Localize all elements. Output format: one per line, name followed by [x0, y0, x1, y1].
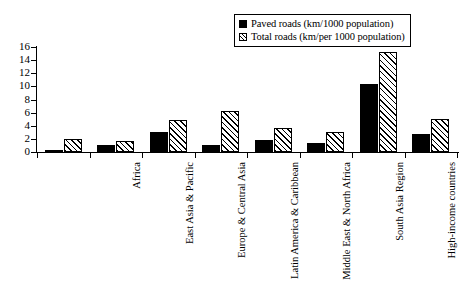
x-axis-label-europe-central-asia: Europe & Central Asia: [236, 162, 248, 280]
x-axis-label-east-asia-pacific: East Asia & Pacific: [184, 162, 196, 280]
x-axis-label-south-asia-region: South Asia Region: [394, 162, 406, 280]
x-axis-label-middle-east-north-africa: Middle East & North Africa: [341, 162, 353, 280]
x-axis-label-high-income-countries: High-income countries: [446, 162, 458, 280]
bar-chart: Paved roads (km/1000 population) Total r…: [0, 0, 463, 283]
x-axis-category-labels: AfricaEast Asia & PacificEurope & Centra…: [0, 0, 463, 283]
x-axis-label-latin-america-caribbean: Latin America & Caribbean: [289, 162, 301, 280]
x-axis-label-africa: Africa: [131, 162, 143, 280]
